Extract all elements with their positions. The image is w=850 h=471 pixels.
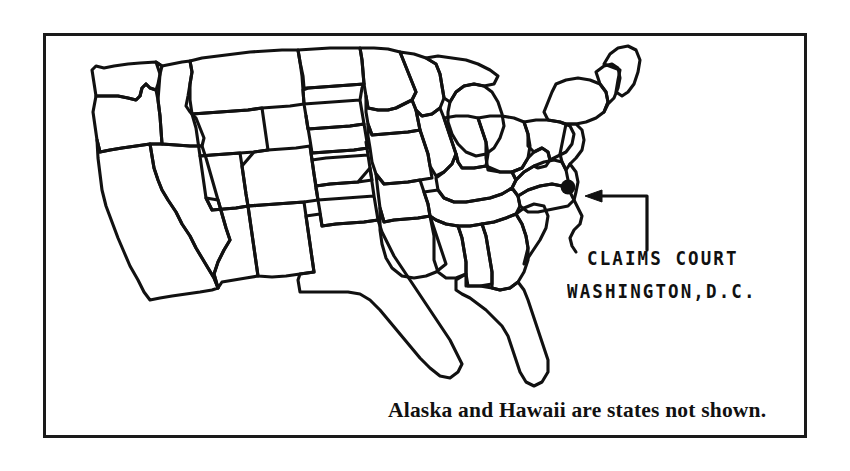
annotation-washington-dc: WASHINGTON,D.C.: [567, 281, 757, 302]
annotation-claims-court: CLAIMS COURT: [587, 248, 739, 269]
figure-frame: [43, 33, 807, 438]
figure-container: CLAIMS COURT WASHINGTON,D.C. Alaska and …: [0, 0, 850, 471]
figure-caption: Alaska and Hawaii are states not shown.: [388, 398, 800, 423]
